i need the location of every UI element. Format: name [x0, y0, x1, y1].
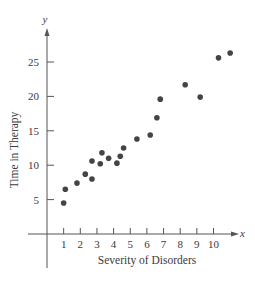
- data-point: [61, 200, 67, 206]
- x-tick-label: 10: [208, 238, 220, 250]
- data-point: [99, 150, 105, 156]
- x-tick-label: 1: [61, 238, 67, 250]
- x-tick-label: 6: [144, 238, 150, 250]
- x-tick-label: 2: [78, 238, 84, 250]
- y-tick-label: 15: [28, 125, 40, 137]
- data-point: [97, 161, 103, 167]
- x-tick-label: 4: [111, 238, 117, 250]
- y-tick-label: 5: [34, 194, 40, 206]
- data-point: [74, 180, 80, 186]
- data-point: [82, 171, 88, 177]
- x-tick-label: 7: [161, 238, 167, 250]
- y-tick-label: 20: [28, 90, 40, 102]
- data-point: [114, 160, 120, 166]
- data-point: [227, 50, 233, 56]
- data-point: [117, 153, 123, 159]
- axis-ticks: 12345678910510152025: [28, 56, 220, 250]
- y-axis-symbol: y: [42, 13, 48, 25]
- x-tick-label: 5: [128, 238, 134, 250]
- x-axis-symbol: x: [239, 227, 245, 239]
- y-axis-arrow-icon: [45, 28, 50, 36]
- data-point: [154, 115, 160, 121]
- data-point: [89, 176, 95, 182]
- x-tick-label: 8: [177, 238, 183, 250]
- y-tick-label: 10: [28, 159, 40, 171]
- x-axis-arrow-icon: [231, 232, 239, 237]
- y-axis-label: Time in Therapy: [8, 111, 21, 188]
- data-point: [147, 132, 153, 138]
- data-point: [182, 82, 188, 88]
- data-point: [89, 158, 95, 164]
- x-axis-label: Severity of Disorders: [98, 254, 197, 267]
- data-point: [121, 145, 127, 151]
- data-point: [106, 156, 112, 162]
- x-tick-label: 9: [194, 238, 200, 250]
- x-tick-label: 3: [94, 238, 100, 250]
- axes: [28, 28, 239, 268]
- data-point: [197, 94, 203, 100]
- data-points: [61, 50, 233, 206]
- y-tick-label: 25: [28, 56, 40, 68]
- data-point: [134, 136, 140, 142]
- data-point: [63, 186, 69, 192]
- data-point: [216, 55, 222, 61]
- data-point: [157, 96, 163, 102]
- scatter-chart: 12345678910510152025 Severity of Disorde…: [0, 0, 255, 284]
